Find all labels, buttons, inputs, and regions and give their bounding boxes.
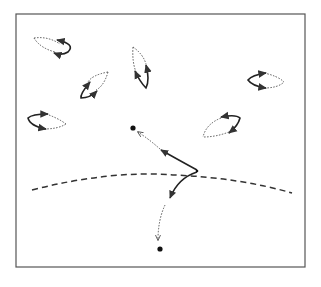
trajectory-lower-branch <box>158 172 197 240</box>
point-lower <box>157 246 162 251</box>
loop-lower-left <box>28 114 66 129</box>
diagram-canvas <box>0 0 321 287</box>
point-upper <box>130 125 135 130</box>
loop-top-left <box>34 38 70 55</box>
trajectory-upper-branch <box>138 132 197 170</box>
loop-mid-left <box>81 72 108 98</box>
loop-lower-right <box>203 116 240 137</box>
loop-upper-center <box>133 47 148 88</box>
loop-right <box>248 73 284 88</box>
point-junction <box>196 170 199 173</box>
diagram-frame <box>16 14 305 267</box>
dashed-boundary <box>32 174 292 193</box>
